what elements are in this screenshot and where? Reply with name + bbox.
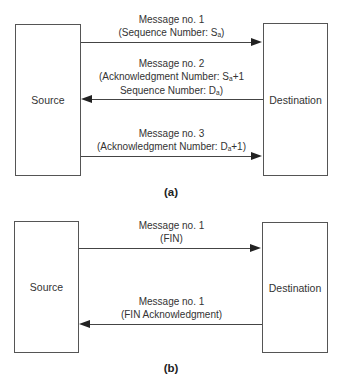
message-title: Message no. 3 <box>80 128 263 141</box>
arrowhead-right-icon <box>251 152 262 160</box>
message-detail: (Sequence Number: Sa) <box>80 27 263 42</box>
arrowhead-right-icon <box>251 38 262 46</box>
message-2-label-b: Message no. 1 (FIN Acknowledgment) <box>80 296 263 321</box>
message-2-label-a: Message no. 2 (Acknowledgment Number: Sa… <box>80 58 263 100</box>
message-1-label-b: Message no. 1 (FIN) <box>80 220 263 245</box>
destination-box-a: Destination <box>263 23 328 176</box>
caption-a: (a) <box>0 186 342 198</box>
arrowhead-left-icon <box>79 320 90 328</box>
message-detail: (FIN) <box>80 233 263 246</box>
source-label-b: Source <box>15 281 78 293</box>
destination-box-b: Destination <box>262 222 328 353</box>
message-title: Message no. 1 <box>80 296 263 309</box>
message-1-arrow-line-a <box>81 42 253 43</box>
destination-label-a: Destination <box>264 94 327 106</box>
message-1-label-a: Message no. 1 (Sequence Number: Sa) <box>80 14 263 41</box>
message-title: Message no. 1 <box>80 220 263 233</box>
caption-b: (b) <box>0 362 342 374</box>
message-detail: (Acknowledgment Number: Da+1) <box>80 141 263 156</box>
source-box-a: Source <box>15 24 81 176</box>
message-1-arrow-line-b <box>79 248 252 249</box>
source-label-a: Source <box>16 94 80 106</box>
message-3-arrow-line-a <box>81 156 253 157</box>
destination-label-b: Destination <box>263 282 327 294</box>
source-box-b: Source <box>14 221 79 353</box>
message-2-arrow-line-a <box>91 99 263 100</box>
message-title: Message no. 1 <box>80 14 263 27</box>
arrowhead-right-icon <box>250 244 261 252</box>
message-detail: Sequence Number: Da) <box>80 85 263 100</box>
message-title: Message no. 2 <box>80 58 263 71</box>
message-2-arrow-line-b <box>89 324 262 325</box>
message-detail: (Acknowledgment Number: Sa+1 <box>80 71 263 86</box>
message-detail: (FIN Acknowledgment) <box>80 309 263 322</box>
message-3-label-a: Message no. 3 (Acknowledgment Number: Da… <box>80 128 263 155</box>
arrowhead-left-icon <box>81 95 92 103</box>
